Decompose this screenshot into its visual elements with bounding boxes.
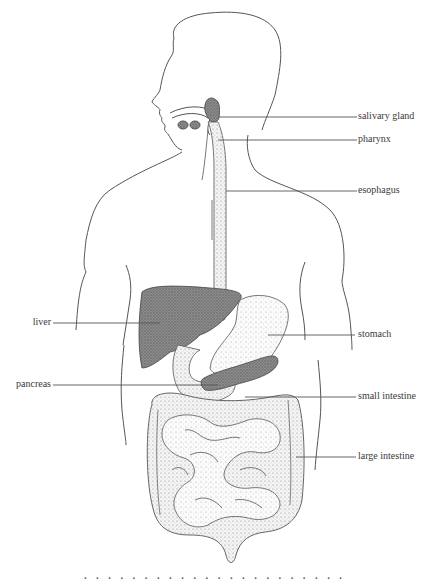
label-large-intestine: large intestine bbox=[358, 450, 414, 462]
label-salivary-gland: salivary gland bbox=[358, 110, 414, 122]
label-pharynx: pharynx bbox=[358, 133, 391, 145]
label-stomach: stomach bbox=[358, 328, 391, 340]
label-pancreas: pancreas bbox=[0, 378, 51, 390]
label-small-intestine: small intestine bbox=[358, 390, 416, 402]
label-liver: liver bbox=[0, 316, 51, 328]
label-esophagus: esophagus bbox=[358, 184, 400, 196]
salivary-gland-shape bbox=[205, 98, 220, 122]
cut-off-caption-text: · · · · · · · · · · · · · · · · · · · · … bbox=[0, 571, 428, 583]
